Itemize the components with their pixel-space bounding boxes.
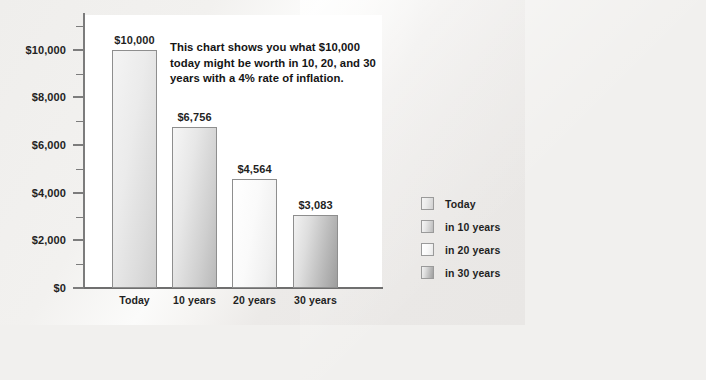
y-axis-label: $4,000	[32, 187, 66, 199]
y-axis-line	[83, 13, 85, 289]
legend-swatch	[421, 266, 434, 279]
x-axis-label: 20 years	[223, 294, 286, 306]
bar	[232, 179, 277, 288]
legend-swatch	[421, 243, 434, 256]
bar	[172, 127, 217, 288]
y-tick-major	[73, 239, 84, 241]
y-tick-major	[73, 192, 84, 194]
y-tick-minor	[76, 217, 84, 218]
y-axis-label: $8,000	[32, 91, 66, 103]
legend-label: Today	[445, 198, 476, 210]
legend-swatch	[421, 220, 434, 233]
chart-annotation: This chart shows you what $10,000 today …	[170, 40, 378, 87]
legend-label: in 20 years	[445, 244, 500, 256]
y-tick-minor	[76, 26, 84, 27]
y-axis-label: $6,000	[32, 139, 66, 151]
y-tick-minor	[76, 264, 84, 265]
x-axis-label: 10 years	[163, 294, 226, 306]
bar	[293, 215, 338, 288]
legend-item: in 20 years	[421, 238, 521, 261]
y-tick-major	[73, 287, 84, 289]
bar-value-label: $4,564	[227, 163, 282, 175]
bar	[112, 50, 157, 288]
legend-item: in 30 years	[421, 261, 521, 284]
y-tick-minor	[76, 74, 84, 75]
bar-value-label: $6,756	[167, 111, 222, 123]
chart-legend: Todayin 10 yearsin 20 yearsin 30 years	[421, 192, 521, 284]
x-axis-label: Today	[103, 294, 166, 306]
legend-item: in 10 years	[421, 215, 521, 238]
y-axis-label: $2,000	[32, 234, 66, 246]
legend-swatch	[421, 197, 434, 210]
y-axis-label: $0	[54, 282, 66, 294]
bar-value-label: $3,083	[288, 199, 343, 211]
y-tick-major	[73, 49, 84, 51]
y-tick-major	[73, 96, 84, 98]
y-tick-major	[73, 144, 84, 146]
y-tick-minor	[76, 121, 84, 122]
bar-value-label: $10,000	[107, 34, 162, 46]
legend-item: Today	[421, 192, 521, 215]
legend-label: in 10 years	[445, 221, 500, 233]
x-axis-label: 30 years	[284, 294, 347, 306]
y-axis-label: $10,000	[26, 44, 66, 56]
y-tick-minor	[76, 169, 84, 170]
legend-label: in 30 years	[445, 267, 500, 279]
